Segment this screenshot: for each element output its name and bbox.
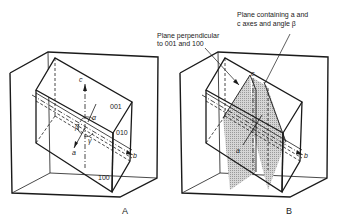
- panel-b: [180, 34, 328, 197]
- panel-a-caption: A: [122, 206, 128, 216]
- beta-label: β: [74, 123, 79, 131]
- annotation-containing-line1: Plane containing a and: [237, 11, 308, 19]
- panel-b-caption: B: [286, 206, 292, 216]
- b-c-axis-label: c: [251, 70, 255, 77]
- face-label-010: 010: [116, 129, 128, 136]
- annotation-perpendicular-line1: Plane perpendicular: [157, 32, 220, 40]
- annotation-perpendicular-line2: to 001 and 100: [157, 40, 204, 47]
- b-axis-label: b: [133, 152, 137, 159]
- panel-a: [10, 52, 158, 197]
- face-label-001: 001: [110, 103, 122, 110]
- annotation-containing-line2: c axes and angle β: [237, 20, 296, 28]
- a-axis-label: a: [72, 149, 76, 156]
- b-a-axis-label: a: [236, 147, 240, 154]
- crystal-axes-diagram: c a b 001 010 100 α β γ A: [0, 0, 338, 222]
- gamma-label: γ: [88, 137, 92, 145]
- c-axis-label: c: [79, 76, 83, 83]
- b-b-axis-label: b: [304, 152, 308, 159]
- face-label-100: 100: [98, 174, 110, 181]
